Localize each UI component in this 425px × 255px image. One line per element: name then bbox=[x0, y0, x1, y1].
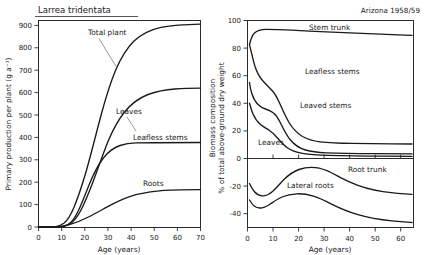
left-y-ticklabel: 800 bbox=[19, 44, 32, 52]
right-x-axis-title: Age (years) bbox=[309, 245, 352, 254]
left-y-ticklabel: 200 bbox=[19, 179, 32, 187]
right-x-ticklabel: 50 bbox=[371, 235, 380, 243]
left-x-ticklabel: 50 bbox=[150, 234, 159, 242]
left-y-ticklabel: 100 bbox=[19, 201, 32, 209]
right-y-ticks bbox=[244, 21, 248, 214]
figure-container: Larrea tridentata 0 100 200 300 bbox=[0, 0, 425, 255]
curve-roots bbox=[39, 190, 201, 227]
label-leafless-stems-right: Leafless stems bbox=[305, 67, 360, 76]
right-y-axis-title-line2: % of total above-ground dry weight bbox=[217, 62, 226, 193]
right-panel: Arizona 1958/59 bbox=[208, 6, 420, 254]
left-plot-frame bbox=[39, 21, 201, 228]
right-x-ticklabel: 40 bbox=[345, 235, 354, 243]
right-y-ticklabel: 100 bbox=[228, 17, 241, 25]
left-y-ticklabel: 600 bbox=[19, 89, 32, 97]
left-y-ticklabels: 0 100 200 300 400 500 600 700 800 900 bbox=[19, 22, 32, 232]
label-leaves-right: Leaves bbox=[258, 138, 284, 147]
label-leafless-stems: Leafless stems bbox=[133, 133, 188, 142]
right-y-axis-title-line1: Biomass composition bbox=[208, 78, 217, 157]
left-panel-title: Larrea tridentata bbox=[38, 5, 111, 15]
left-y-ticklabel: 700 bbox=[19, 67, 32, 75]
left-y-ticklabel: 400 bbox=[19, 134, 32, 142]
label-roots: Roots bbox=[143, 179, 164, 188]
left-y-ticklabel: 0 bbox=[28, 224, 32, 232]
label-stem-trunk: Stem trunk bbox=[309, 23, 351, 32]
right-x-ticklabel: 0 bbox=[245, 235, 249, 243]
left-x-ticklabel: 10 bbox=[57, 234, 66, 242]
curve-leafless-stems bbox=[39, 143, 201, 228]
leader-leaves bbox=[127, 117, 136, 131]
left-x-ticklabel: 40 bbox=[127, 234, 136, 242]
right-x-ticks bbox=[248, 228, 401, 232]
left-x-ticklabel: 20 bbox=[80, 234, 89, 242]
left-y-ticklabel: 500 bbox=[19, 112, 32, 120]
curve-lateral-roots bbox=[250, 194, 413, 223]
left-x-ticklabel: 30 bbox=[103, 234, 112, 242]
leader-total-plant bbox=[99, 39, 117, 69]
two-panel-figure: Larrea tridentata 0 100 200 300 bbox=[0, 0, 425, 255]
right-y-ticklabel: 40 bbox=[232, 100, 241, 108]
right-y-ticklabel: -40 bbox=[230, 210, 241, 218]
right-y-ticklabel: -20 bbox=[230, 183, 241, 191]
right-y-ticklabel: 20 bbox=[232, 127, 241, 135]
right-x-ticklabel: 30 bbox=[320, 235, 329, 243]
curve-leafless-stems-right bbox=[250, 45, 413, 144]
right-plot-frame bbox=[248, 21, 414, 228]
left-y-ticks bbox=[35, 25, 39, 227]
label-leaves: Leaves bbox=[116, 107, 142, 116]
left-panel: Larrea tridentata 0 100 200 300 bbox=[4, 5, 205, 254]
left-x-axis-title: Age (years) bbox=[98, 245, 141, 254]
right-x-ticklabel: 10 bbox=[269, 235, 278, 243]
left-x-ticklabel: 70 bbox=[196, 234, 205, 242]
curve-total-plant bbox=[39, 24, 201, 227]
left-y-ticklabel: 300 bbox=[19, 156, 32, 164]
right-y-ticklabel: 80 bbox=[232, 45, 241, 53]
right-y-ticklabel: 0 bbox=[237, 155, 241, 163]
label-total-plant: Total plant bbox=[87, 28, 127, 37]
left-y-ticklabel: 900 bbox=[19, 22, 32, 30]
right-x-ticklabel: 20 bbox=[294, 235, 303, 243]
left-y-axis-title: Primary production per plant (g a⁻¹) bbox=[4, 57, 13, 190]
curve-leaves-right bbox=[250, 103, 413, 156]
right-panel-annotation: Arizona 1958/59 bbox=[361, 6, 421, 15]
right-x-ticklabel: 60 bbox=[396, 235, 405, 243]
left-x-ticklabel: 0 bbox=[36, 234, 40, 242]
right-y-ticklabel: 60 bbox=[232, 72, 241, 80]
right-y-ticklabels: 100 80 60 40 20 0 -20 -40 bbox=[228, 17, 241, 218]
right-x-ticklabels: 0 10 20 30 40 50 60 bbox=[245, 235, 405, 243]
label-root-trunk: Root trunk bbox=[348, 165, 387, 174]
left-x-ticklabels: 0 10 20 30 40 50 60 70 bbox=[36, 234, 205, 242]
left-x-ticklabel: 60 bbox=[173, 234, 182, 242]
label-lateral-roots: Lateral roots bbox=[287, 181, 334, 190]
label-leaved-stems: Leaved stems bbox=[300, 101, 352, 110]
